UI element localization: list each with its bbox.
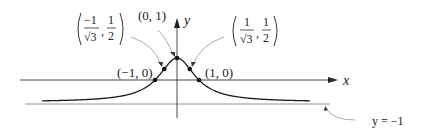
- svg-text:,: ,: [101, 24, 104, 38]
- leader-asymptote: [326, 108, 355, 120]
- label-x-intercept-right: (1, 0): [205, 65, 233, 80]
- svg-text:1: 1: [108, 13, 114, 27]
- x-axis-arrow-icon: [328, 77, 338, 83]
- y-axis-arrow-icon: [174, 18, 180, 28]
- svg-text:,: ,: [256, 26, 259, 40]
- leader-inflection-right: [193, 37, 224, 65]
- label-peak: (0, 1): [138, 8, 166, 23]
- svg-text:2: 2: [263, 31, 269, 45]
- leader-peak: [158, 30, 173, 55]
- point-x-intercept-right: [197, 78, 202, 83]
- leader-inflection-left-arrow-icon: [158, 62, 163, 67]
- point-inflection-right: [187, 67, 192, 72]
- point-x-intercept-left: [153, 78, 158, 83]
- svg-text:√3: √3: [84, 30, 97, 44]
- label-inflection-right: 1 √3 , 1 2: [233, 15, 277, 46]
- label-asymptote: y = −1: [372, 114, 404, 128]
- svg-text:−1: −1: [84, 13, 97, 27]
- point-inflection-left: [162, 67, 167, 72]
- svg-text:1: 1: [244, 15, 250, 29]
- leader-peak-arrow-icon: [170, 52, 175, 57]
- label-inflection-left: −1 √3 , 1 2: [78, 13, 123, 45]
- x-axis-label: x: [342, 73, 350, 88]
- y-axis-label: y: [182, 13, 191, 28]
- leader-inflection-right-arrow-icon: [191, 62, 196, 67]
- svg-text:2: 2: [108, 29, 114, 43]
- svg-text:1: 1: [263, 15, 269, 29]
- graph-canvas: x y (0, 1) (−1, 0) (1, 0) y = −1 −1 √3 ,…: [0, 0, 421, 133]
- leader-inflection-left: [131, 37, 161, 65]
- label-x-intercept-left: (−1, 0): [117, 65, 153, 80]
- function-curve: [42, 58, 310, 101]
- point-peak: [175, 56, 180, 61]
- svg-text:√3: √3: [240, 32, 253, 46]
